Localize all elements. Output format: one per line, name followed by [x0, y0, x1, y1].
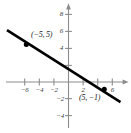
- point-label-lower-right: (5, −1): [79, 94, 100, 102]
- y-tick-label-neg2: −2: [56, 95, 64, 102]
- y-tick-label-4: 4: [60, 45, 63, 52]
- coordinate-graph-figure: −6 −4 −2 2 6 8 6 4 −2 −4 (−5, 5) (5, −1): [0, 0, 131, 133]
- x-axis-arrow-icon: [123, 80, 129, 85]
- coordinate-plane-svg: [0, 0, 131, 133]
- y-tick-label-6: 6: [60, 28, 63, 35]
- x-tick-label-neg6: −6: [21, 87, 29, 94]
- x-tick-label-6: 6: [111, 87, 114, 94]
- point-label-upper-left: (−5, 5): [31, 31, 52, 39]
- x-tick-label-neg4: −4: [35, 87, 43, 94]
- data-point-lower-right: [102, 87, 107, 92]
- x-tick-label-neg2: −2: [50, 87, 58, 94]
- data-point-upper-left: [24, 42, 29, 47]
- y-tick-label-neg4: −4: [56, 112, 64, 119]
- y-tick-label-8: 8: [60, 11, 63, 18]
- y-axis-arrow-icon: [66, 3, 71, 9]
